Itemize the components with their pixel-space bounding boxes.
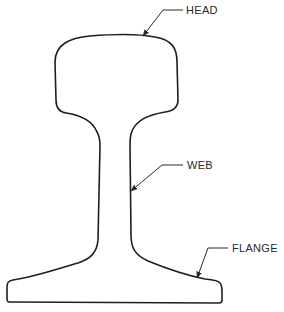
head-leader-line xyxy=(143,10,183,36)
web-leader-line xyxy=(131,165,183,191)
web-label: WEB xyxy=(187,160,213,171)
flange-leader-line xyxy=(197,248,228,278)
head-label: HEAD xyxy=(186,5,218,16)
flange-label: FLANGE xyxy=(232,243,278,254)
rail-cross-section-diagram xyxy=(0,0,284,312)
